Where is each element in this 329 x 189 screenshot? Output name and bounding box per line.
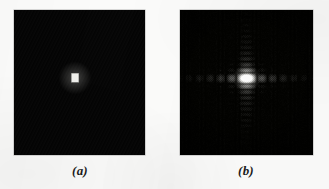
panel-a-spatial-image [14, 10, 145, 155]
rectangle-image-canvas [14, 10, 145, 155]
panel-b-fourier-spectrum [180, 10, 313, 155]
caption-a: (a) [50, 163, 110, 179]
figure-root: (a) (b) [0, 0, 329, 189]
fourier-spectrum-canvas [180, 10, 313, 155]
caption-b: (b) [216, 163, 276, 179]
